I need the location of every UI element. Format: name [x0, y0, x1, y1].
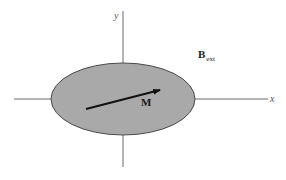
x-axis-label: x — [270, 94, 274, 104]
magnetization-diagram — [0, 0, 286, 180]
external-field-subscript: ext — [206, 55, 215, 63]
external-field-symbol: B — [198, 48, 205, 60]
magnetization-label: M — [141, 97, 151, 108]
y-axis-label: y — [114, 11, 118, 21]
external-field-label: Bext — [198, 49, 215, 60]
